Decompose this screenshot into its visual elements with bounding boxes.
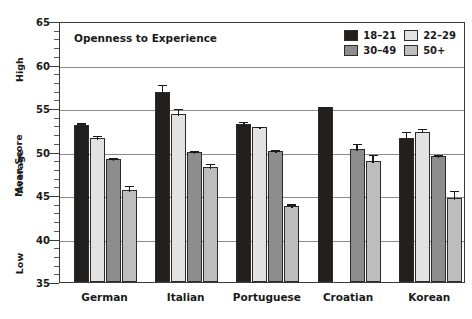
chart-title: Openness to Experience	[74, 32, 217, 44]
x-axis-tick-label: Croatian	[323, 291, 373, 303]
bar	[318, 107, 333, 282]
bar-group	[141, 23, 222, 282]
bar	[284, 206, 299, 282]
error-bar-line	[406, 132, 407, 141]
bar	[399, 138, 414, 282]
plot-area: Openness to Experience 18–2122–2930–4950…	[59, 22, 465, 283]
bar	[74, 125, 89, 282]
x-axis-tick-label: Korean	[408, 291, 450, 303]
y-band-label-low: Low	[14, 242, 25, 286]
bar	[236, 124, 251, 282]
legend-swatch	[344, 45, 358, 56]
y-axis-tick-label: 55	[24, 104, 50, 115]
x-axis-tick-label: Portuguese	[233, 291, 301, 303]
bar-group	[222, 23, 303, 282]
error-bar-cap	[255, 127, 264, 128]
x-axis-tick-labels: GermanItalianPortugueseCroatianKorean	[59, 291, 465, 311]
error-bar-cap	[125, 186, 134, 187]
error-bar-cap	[109, 158, 118, 159]
error-bar-cap	[369, 155, 378, 156]
legend-label: 18–21	[363, 30, 399, 41]
y-tick-major	[48, 153, 59, 154]
bar	[415, 132, 430, 283]
bar-group	[385, 23, 466, 282]
y-tick-major	[48, 22, 59, 23]
bar	[252, 127, 267, 282]
bar	[350, 149, 365, 282]
error-bar-cap	[402, 132, 411, 133]
error-bar-cap	[190, 151, 199, 152]
legend-swatch	[344, 30, 358, 41]
bar	[171, 114, 186, 282]
error-bar-cap	[93, 136, 102, 137]
x-axis-tick-label: Italian	[167, 291, 205, 303]
error-bar-cap	[353, 144, 362, 145]
bar	[122, 190, 137, 282]
legend-swatch	[404, 30, 418, 41]
chart-figure: Mean Score High Average Low 656055504540…	[0, 0, 472, 319]
y-tick-major	[48, 240, 59, 241]
y-axis-tick-label: 40	[24, 234, 50, 245]
y-band-label-average: Average	[14, 150, 25, 194]
y-axis-ticks	[48, 22, 59, 283]
error-bar-line	[454, 191, 455, 200]
bar-group	[304, 23, 385, 282]
bar	[155, 92, 170, 282]
bar	[187, 152, 202, 282]
error-bar-cap	[287, 204, 296, 205]
legend-swatch	[404, 45, 418, 56]
y-axis-tick-label: 50	[24, 147, 50, 158]
y-axis-tick-label: 45	[24, 191, 50, 202]
bar	[268, 151, 283, 282]
bar	[431, 156, 446, 282]
y-tick-major	[48, 283, 59, 284]
error-bar-line	[162, 85, 163, 95]
error-bar-cap	[434, 155, 443, 156]
bar	[447, 198, 462, 282]
error-bar-cap	[321, 107, 330, 108]
error-bar-cap	[77, 123, 86, 124]
bar	[90, 138, 105, 282]
error-bar-cap	[418, 129, 427, 130]
bar	[366, 161, 381, 282]
bar-group	[60, 23, 141, 282]
legend-label: 22–29	[423, 30, 459, 41]
error-bar-cap	[158, 85, 167, 86]
error-bar-cap	[239, 122, 248, 123]
legend-label: 30–49	[363, 45, 399, 56]
bar	[106, 159, 121, 282]
y-axis-tick-label: 65	[24, 17, 50, 28]
y-axis-tick-labels: 65605550454035	[24, 0, 50, 319]
error-bar-cap	[174, 109, 183, 110]
y-tick-major	[48, 196, 59, 197]
y-band-label-high: High	[14, 48, 25, 92]
y-axis-tick-label: 60	[24, 60, 50, 71]
error-bar-cap	[450, 191, 459, 192]
error-bar-cap	[206, 164, 215, 165]
error-bar-cap	[271, 150, 280, 151]
y-tick-major	[48, 66, 59, 67]
legend-label: 50+	[423, 45, 459, 56]
y-tick-major	[48, 109, 59, 110]
legend: 18–2122–2930–4950+	[344, 28, 459, 58]
bar	[203, 167, 218, 282]
y-axis-tick-label: 35	[24, 278, 50, 289]
x-axis-tick-label: German	[81, 291, 127, 303]
